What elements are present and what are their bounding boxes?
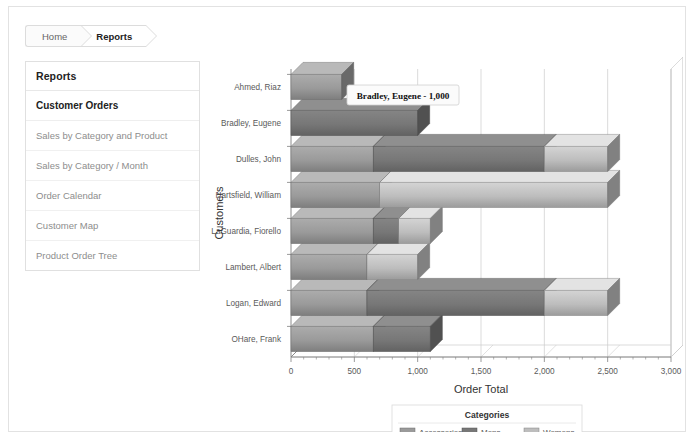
- x-axis-tick-label: 0: [289, 367, 294, 376]
- legend-label: Womens: [543, 428, 574, 432]
- bar-segment[interactable]: [291, 170, 392, 207]
- bar-segment[interactable]: [367, 278, 556, 315]
- order-total-chart: OHare, FrankLogan, EdwardLambert, Albert…: [205, 57, 683, 432]
- bar-segment[interactable]: [291, 278, 379, 315]
- sidebar: Reports Customer Orders Sales by Categor…: [25, 61, 200, 271]
- legend-swatch: [524, 428, 539, 432]
- legend-label: Mens: [481, 428, 501, 432]
- y-axis-tick-label: Lambert, Albert: [225, 263, 281, 272]
- sidebar-item-customer-map[interactable]: Customer Map: [26, 211, 199, 241]
- svg-text:Bradley, Eugene - 1,000: Bradley, Eugene - 1,000: [357, 91, 450, 101]
- sidebar-item-order-calendar[interactable]: Order Calendar: [26, 181, 199, 211]
- bar-segment[interactable]: [291, 134, 385, 171]
- chart-canvas: OHare, FrankLogan, EdwardLambert, Albert…: [205, 57, 683, 432]
- y-axis-tick-label: Logan, Edward: [226, 299, 282, 308]
- bar-segment[interactable]: [373, 314, 442, 351]
- bar-segment[interactable]: [544, 278, 619, 315]
- legend-label: Accessories: [419, 428, 462, 432]
- sidebar-item-sales-by-category-month[interactable]: Sales by Category / Month: [26, 151, 199, 181]
- bar-segment[interactable]: [367, 242, 430, 279]
- breadcrumb-separator-fill-icon: [146, 26, 156, 46]
- bar-segment[interactable]: [291, 314, 385, 351]
- legend-swatch: [400, 428, 415, 432]
- y-axis-tick-label: Bradley, Eugene: [221, 119, 281, 128]
- y-axis-title: Customers: [213, 186, 225, 240]
- y-axis-tick-label: Dulles, John: [236, 155, 282, 164]
- breadcrumb-separator-fill-icon: [81, 26, 91, 46]
- breadcrumb-item-home[interactable]: Home: [25, 25, 81, 47]
- y-axis-tick-label: Hartsfield, William: [215, 191, 281, 200]
- sidebar-section-customer-orders: Customer Orders: [26, 91, 199, 121]
- x-axis-title: Order Total: [454, 383, 508, 395]
- sidebar-item-product-order-tree[interactable]: Product Order Tree: [26, 241, 199, 270]
- breadcrumb-label: Reports: [96, 31, 132, 42]
- bar-segment[interactable]: [291, 242, 379, 279]
- legend-swatch: [462, 428, 477, 432]
- sidebar-item-sales-by-category-and-product[interactable]: Sales by Category and Product: [26, 121, 199, 151]
- breadcrumb-label: Home: [42, 31, 67, 42]
- bar-segment[interactable]: [399, 206, 443, 243]
- breadcrumb: Home Reports: [25, 25, 146, 47]
- bar-segment[interactable]: [544, 134, 619, 171]
- x-axis-tick-label: 3,000: [661, 367, 682, 376]
- report-page: Home Reports Reports Customer Orders Sal…: [8, 6, 686, 432]
- x-axis-tick-label: 2,500: [597, 367, 618, 376]
- chart-tooltip: Bradley, Eugene - 1,000: [347, 85, 459, 105]
- bar-segment[interactable]: [291, 206, 385, 243]
- x-axis-tick-label: 2,000: [534, 367, 555, 376]
- plot-side-wall: [671, 57, 683, 357]
- y-axis-tick-label: Ahmed, Riaz: [234, 83, 281, 92]
- x-axis-tick-label: 1,000: [407, 367, 428, 376]
- x-axis-tick-label: 500: [347, 367, 361, 376]
- bar-segment[interactable]: [291, 62, 354, 99]
- x-axis-tick-label: 1,500: [471, 367, 492, 376]
- legend-title: Categories: [465, 410, 510, 420]
- bar-segment[interactable]: [380, 170, 620, 207]
- y-axis-tick-label: OHare, Frank: [231, 335, 281, 344]
- sidebar-title: Reports: [26, 62, 199, 91]
- bar-segment[interactable]: [373, 134, 556, 171]
